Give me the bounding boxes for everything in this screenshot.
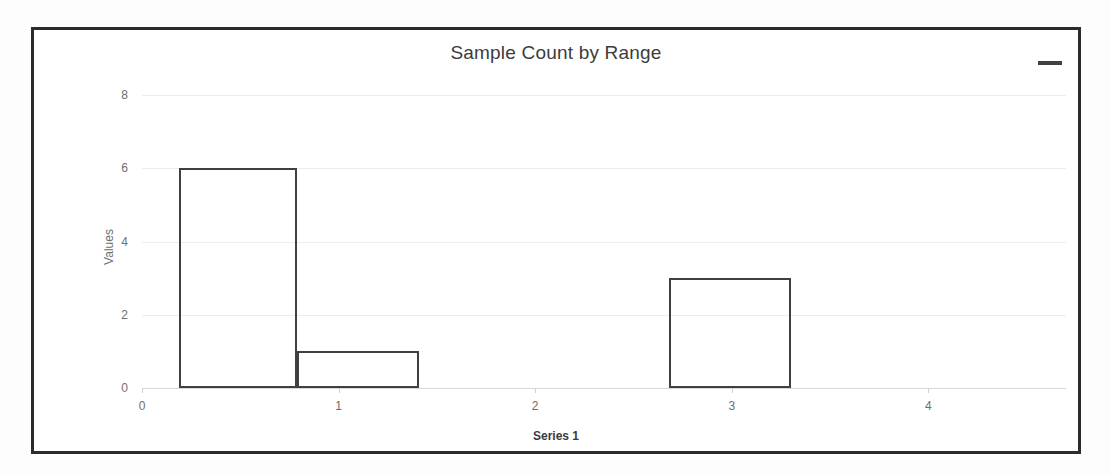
- x-tick-label: 4: [925, 399, 932, 413]
- chart-title: Sample Count by Range: [34, 42, 1078, 64]
- x-tick-label: 2: [532, 399, 539, 413]
- bar[interactable]: [179, 168, 297, 388]
- hamburger-menu-icon[interactable]: [1038, 45, 1062, 65]
- x-tick-mark: [928, 388, 929, 393]
- y-tick-label: 2: [121, 308, 128, 322]
- plot-area: 0246801234: [142, 95, 1066, 388]
- bar[interactable]: [297, 351, 419, 388]
- x-tick-label: 3: [728, 399, 735, 413]
- y-tick-label: 8: [121, 88, 128, 102]
- x-tick-mark: [339, 388, 340, 393]
- x-tick-mark: [535, 388, 536, 393]
- x-tick-mark: [732, 388, 733, 393]
- y-tick-label: 0: [121, 381, 128, 395]
- x-tick-label: 0: [139, 399, 146, 413]
- x-tick-label: 1: [335, 399, 342, 413]
- bar[interactable]: [669, 278, 791, 388]
- x-tick-mark: [142, 388, 143, 393]
- y-axis-title: Values: [102, 229, 116, 265]
- plot-region: Values 0246801234: [85, 66, 1074, 428]
- gridline-y: [142, 95, 1066, 96]
- x-axis-title: Series 1: [34, 429, 1078, 443]
- chart-container: Sample Count by Range Values 0246801234 …: [31, 27, 1081, 454]
- y-tick-label: 4: [121, 235, 128, 249]
- hamburger-bar-3: [1038, 61, 1062, 65]
- y-tick-label: 6: [121, 161, 128, 175]
